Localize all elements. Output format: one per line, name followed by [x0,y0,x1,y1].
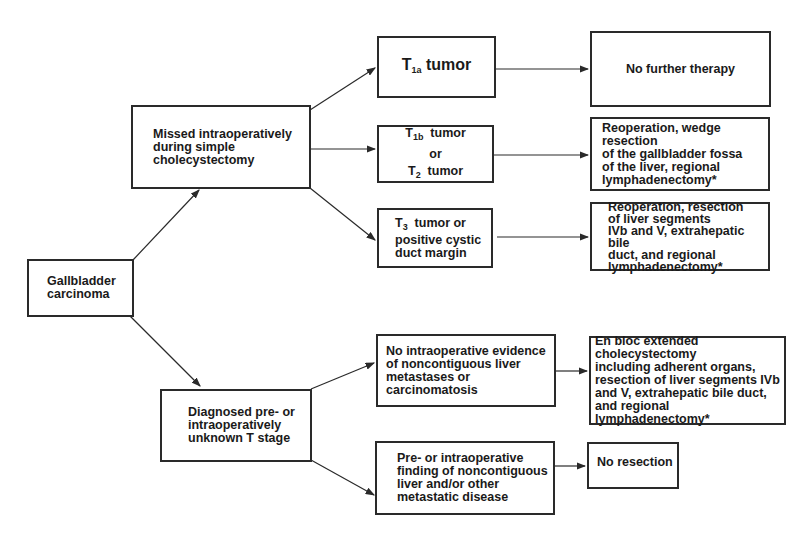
node-label: No further therapy [626,63,735,76]
node-reoperation-wedge-resection: Reoperation, wedge resection of the gall… [590,117,770,191]
node-label: No resection [597,456,677,469]
t-suffix: tumor [423,126,465,140]
node-label: Reoperation, wedge resection of the gall… [602,122,768,187]
node-no-intraoperative-evidence: No intraoperative evidence of noncontigu… [376,334,556,407]
node-missed-intraoperatively: Missed intraoperatively during simple ch… [131,105,311,189]
t3-rest: positive cystic duct margin [395,234,491,260]
node-label: Reoperation, resection of liver segments… [608,201,768,273]
node-no-further-therapy: No further therapy [590,31,771,107]
t-sub: 1a [411,65,421,75]
node-no-resection: No resection [587,442,679,489]
t-suffix: tumor [422,56,472,73]
node-label: Pre- or intraoperative finding of noncon… [397,452,553,504]
node-reoperation-segment-resection: Reoperation, resection of liver segments… [590,202,770,271]
node-t1a-tumor: T1a tumor [377,36,496,98]
t-prefix: T [405,126,413,140]
node-label: Missed intraoperatively during simple ch… [153,128,309,167]
node-en-bloc-cholecystectomy: En bloc extended cholecystectomy includi… [589,336,786,425]
t2-suffix: tumor [421,164,463,178]
node-t3-tumor: T3 tumor or positive cystic duct margin [377,208,493,268]
node-label: Diagnosed pre- or intraoperatively unkno… [188,406,310,445]
t2-prefix: T [408,164,416,178]
t-sub: 1b [413,132,424,142]
node-gallbladder-carcinoma: Gallbladder carcinoma [27,259,134,317]
node-diagnosed-unknown-t-stage: Diagnosed pre- or intraoperatively unkno… [160,389,312,462]
node-t1b-or-t2-tumor: T1b tumor or T2 tumor [377,125,494,183]
or-label: or [429,146,442,163]
node-metastatic-disease: Pre- or intraoperative finding of noncon… [375,441,555,515]
node-label: No intraoperative evidence of noncontigu… [386,345,554,397]
t-prefix: T [395,216,403,230]
node-label: En bloc extended cholecystectomy includi… [595,335,784,426]
t-suffix: tumor or [408,216,466,230]
node-label: Gallbladder carcinoma [47,275,132,301]
